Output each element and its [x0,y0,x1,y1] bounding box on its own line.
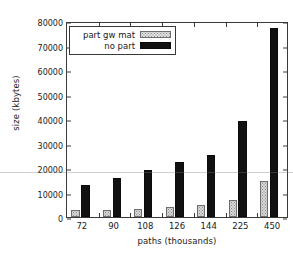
bar-no-part-108 [144,170,152,217]
x-tick-mark [257,213,258,217]
bar-group-225 [224,23,255,217]
y-axis-title: size (kbytes) [11,53,21,153]
y-tick-mark [67,219,71,220]
legend-label: no part [104,41,135,51]
bar-part-gw-mat-72 [71,210,79,217]
y-tick-mark [283,72,287,73]
y-tick-mark [283,194,287,195]
bar-no-part-225 [238,121,246,217]
y-tick-label: 70000 [38,43,63,52]
x-tick-label-144: 144 [201,221,217,231]
y-tick-label: 10000 [38,190,63,199]
y-tick-mark [283,96,287,97]
y-tick-mark [67,170,71,171]
y-tick-mark [283,47,287,48]
legend-label: part gw mat [83,30,135,40]
bar-no-part-450 [270,28,278,217]
bar-part-gw-mat-108 [134,209,142,217]
bar-no-part-90 [113,178,121,217]
y-tick-mark [283,23,287,24]
bar-no-part-144 [207,155,215,217]
legend-swatch-no-part [140,42,171,49]
x-tick-mark [162,213,163,217]
y-tick-mark [67,96,71,97]
x-tick-label-225: 225 [232,221,248,231]
x-axis-title: paths (thousands) [66,236,288,246]
x-tick-mark [194,23,195,27]
y-tick-label: 80000 [38,19,63,28]
y-tick-label: 40000 [38,117,63,126]
x-tick-label-126: 126 [169,221,185,231]
legend-swatch-part-gw-mat [140,31,171,38]
x-tick-label-72: 72 [76,221,87,231]
y-tick-label: 0 [58,215,63,224]
plot-area: 0100002000030000400005000060000700008000… [66,22,288,218]
y-tick-label: 50000 [38,92,63,101]
bar-part-gw-mat-450 [260,181,268,217]
y-tick-mark [283,219,287,220]
x-tick-label-108: 108 [137,221,153,231]
bar-part-gw-mat-90 [103,210,111,217]
y-tick-label: 60000 [38,68,63,77]
y-tick-label: 30000 [38,141,63,150]
y-tick-mark [67,72,71,73]
y-tick-label: 20000 [38,166,63,175]
y-tick-mark [67,121,71,122]
bar-no-part-72 [81,185,89,217]
x-tick-mark [257,23,258,27]
x-tick-mark [130,213,131,217]
y-tick-mark [283,121,287,122]
x-tick-label-450: 450 [264,221,280,231]
y-tick-mark [67,23,71,24]
x-tick-mark [194,213,195,217]
bar-no-part-126 [175,162,183,217]
bar-part-gw-mat-126 [166,207,174,217]
y-tick-mark [67,145,71,146]
bar-part-gw-mat-225 [229,200,237,217]
legend-entry: part gw mat [74,29,171,40]
x-tick-mark [226,213,227,217]
x-tick-mark [226,23,227,27]
bar-part-gw-mat-144 [197,205,205,217]
y-tick-mark [67,194,71,195]
chart-legend: part gw mat no part [69,26,176,55]
x-tick-mark [99,213,100,217]
legend-entry: no part [74,40,171,51]
bar-group-144 [193,23,224,217]
x-tick-label-90: 90 [108,221,119,231]
bar-chart-figure: size (kbytes) paths (thousands) 01000020… [0,0,293,255]
scan-artifact-line [0,172,293,173]
y-tick-mark [283,145,287,146]
y-tick-mark [283,170,287,171]
